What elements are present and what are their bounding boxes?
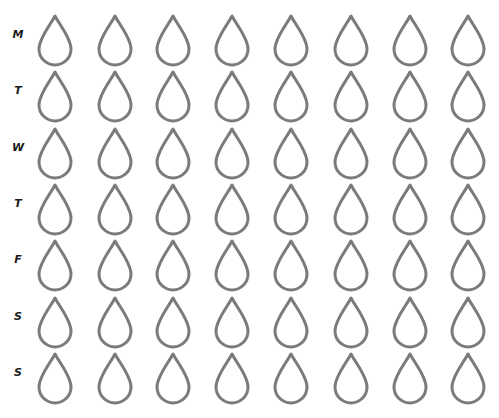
- water-drop-icon[interactable]: [449, 296, 487, 350]
- water-drop-icon[interactable]: [154, 352, 192, 406]
- water-drop-icon[interactable]: [449, 352, 487, 406]
- water-drop-icon[interactable]: [154, 14, 192, 68]
- water-drop-icon[interactable]: [213, 352, 251, 406]
- water-drop-icon[interactable]: [213, 127, 251, 181]
- water-drop-icon[interactable]: [332, 14, 370, 68]
- water-drop-icon[interactable]: [449, 14, 487, 68]
- water-drop-icon[interactable]: [154, 70, 192, 124]
- water-drop-icon[interactable]: [154, 239, 192, 293]
- water-drop-icon[interactable]: [449, 70, 487, 124]
- water-drop-icon[interactable]: [96, 127, 134, 181]
- water-drop-icon[interactable]: [272, 296, 310, 350]
- water-drop-icon[interactable]: [332, 70, 370, 124]
- water-drop-icon[interactable]: [154, 183, 192, 237]
- water-drop-icon[interactable]: [272, 183, 310, 237]
- water-drop-icon[interactable]: [213, 14, 251, 68]
- day-label: T: [10, 84, 26, 97]
- water-drop-icon[interactable]: [36, 70, 74, 124]
- water-drop-icon[interactable]: [36, 14, 74, 68]
- day-label: T: [10, 197, 26, 210]
- water-drop-icon[interactable]: [96, 239, 134, 293]
- water-drop-icon[interactable]: [96, 183, 134, 237]
- water-drop-icon[interactable]: [391, 352, 429, 406]
- water-drop-icon[interactable]: [96, 14, 134, 68]
- water-drop-icon[interactable]: [332, 127, 370, 181]
- day-label: S: [10, 366, 26, 379]
- water-drop-icon[interactable]: [36, 127, 74, 181]
- day-label: M: [10, 28, 26, 41]
- water-drop-icon[interactable]: [332, 183, 370, 237]
- water-drop-icon[interactable]: [36, 239, 74, 293]
- water-drop-icon[interactable]: [96, 70, 134, 124]
- water-drop-icon[interactable]: [36, 352, 74, 406]
- water-drop-icon[interactable]: [272, 14, 310, 68]
- water-drop-icon[interactable]: [332, 296, 370, 350]
- water-drop-icon[interactable]: [272, 239, 310, 293]
- water-drop-icon[interactable]: [213, 70, 251, 124]
- water-drop-icon[interactable]: [213, 296, 251, 350]
- water-drop-icon[interactable]: [154, 127, 192, 181]
- water-drop-icon[interactable]: [96, 296, 134, 350]
- day-label: F: [10, 253, 26, 266]
- water-drop-icon[interactable]: [332, 239, 370, 293]
- water-drop-icon[interactable]: [449, 239, 487, 293]
- water-drop-icon[interactable]: [391, 70, 429, 124]
- water-drop-icon[interactable]: [391, 127, 429, 181]
- day-label: S: [10, 310, 26, 323]
- water-drop-icon[interactable]: [391, 296, 429, 350]
- water-drop-icon[interactable]: [391, 14, 429, 68]
- water-drop-icon[interactable]: [96, 352, 134, 406]
- water-drop-icon[interactable]: [272, 352, 310, 406]
- water-drop-icon[interactable]: [449, 183, 487, 237]
- water-drop-icon[interactable]: [391, 239, 429, 293]
- water-drop-icon[interactable]: [391, 183, 429, 237]
- water-drop-icon[interactable]: [272, 127, 310, 181]
- water-drop-icon[interactable]: [36, 183, 74, 237]
- water-drop-icon[interactable]: [272, 70, 310, 124]
- water-drop-icon[interactable]: [213, 183, 251, 237]
- water-drop-icon[interactable]: [154, 296, 192, 350]
- water-drop-icon[interactable]: [36, 296, 74, 350]
- day-label: W: [10, 141, 26, 154]
- water-drop-icon[interactable]: [213, 239, 251, 293]
- water-drop-icon[interactable]: [449, 127, 487, 181]
- water-drop-icon[interactable]: [332, 352, 370, 406]
